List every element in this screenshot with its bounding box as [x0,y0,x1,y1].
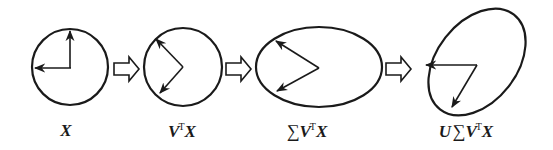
label-x-text: X [185,122,196,141]
label-x-text: X [316,122,327,141]
label-vtx: VTX [168,121,196,142]
basis-vector-lower-left [160,67,183,93]
label-u: U [439,122,451,141]
label-svtx: ∑VTX [287,121,328,142]
transition-arrow-3 [386,57,411,81]
label-x-text: X [482,122,493,141]
stage-svtx-ellipse [256,27,382,107]
stage-x-circle [32,29,108,105]
label-x-text: X [60,121,71,140]
transition-arrow-1 [114,57,139,81]
label-x: X [60,121,71,141]
stage-usvtx-rotated-ellipse [409,0,546,134]
label-sigma: ∑ [287,121,300,141]
basis-vector-down-left [452,65,477,107]
basis-vector-upper-left [276,41,319,68]
label-sigma: ∑ [453,121,466,141]
transition-arrow-2 [226,57,251,81]
stage-vtx-circle [144,28,222,106]
basis-vector-lower-left [277,68,319,91]
basis-vector-upper-left [156,39,183,67]
label-usvtx: U ∑VTX [439,121,493,142]
